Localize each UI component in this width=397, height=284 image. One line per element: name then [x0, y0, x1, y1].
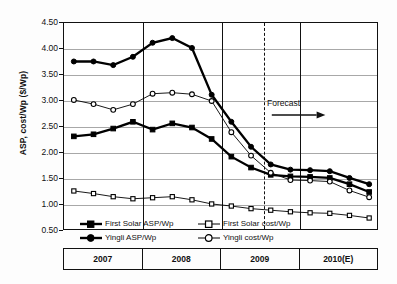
x-axis-year-groups: 2007200820092010(E) [63, 248, 378, 270]
legend-marker-filled-square-icon [80, 219, 102, 229]
series-marker [150, 40, 155, 45]
series-marker [170, 195, 174, 199]
series-marker [249, 165, 254, 170]
y-axis-tick-label: 0.50 [14, 225, 58, 235]
series-marker [131, 120, 136, 125]
x-axis-group-label: 2009 [221, 249, 300, 269]
series-marker [111, 126, 116, 131]
chart-legend: First Solar ASP/Wp First Solar cost/Wp Y… [80, 217, 320, 245]
series-marker [170, 90, 175, 95]
y-axis-tick-label: 1.00 [14, 199, 58, 209]
y-axis-tick-label: 1.50 [14, 173, 58, 183]
series-marker [111, 107, 116, 112]
series-marker [229, 119, 234, 124]
series-marker [131, 102, 136, 107]
plot-area: Forecast [63, 22, 378, 230]
x-axis-group-label: 2008 [143, 249, 222, 269]
series-marker [91, 102, 96, 107]
series-marker [288, 167, 293, 172]
series-marker [209, 137, 214, 142]
legend-label: First Solar cost/Wp [223, 219, 291, 229]
series-marker [91, 191, 95, 195]
data-series-lines [64, 23, 379, 231]
series-marker [347, 188, 352, 193]
series-marker [367, 216, 371, 220]
series-marker [288, 178, 293, 183]
series-marker [327, 179, 332, 184]
series-line [74, 38, 369, 184]
series-marker [367, 195, 372, 200]
x-axis-group-label: 2010(E) [300, 249, 378, 269]
series-marker [210, 202, 214, 206]
series-line [74, 191, 369, 218]
series-marker [229, 204, 233, 208]
y-axis-tick-mark [59, 230, 63, 231]
series-marker [111, 195, 115, 199]
series-marker [150, 196, 154, 200]
series-marker [150, 127, 155, 132]
y-axis-tick-label: 2.50 [14, 121, 58, 131]
series-marker [308, 211, 312, 215]
series-marker [288, 210, 292, 214]
series-marker [347, 182, 352, 187]
y-axis-tick-label: 4.50 [14, 17, 58, 27]
legend-item-first-solar-cost: First Solar cost/Wp [198, 217, 320, 231]
series-marker [190, 198, 194, 202]
series-marker [190, 125, 195, 130]
series-marker [249, 144, 254, 149]
legend-label: First Solar ASP/Wp [105, 219, 173, 229]
series-marker [347, 175, 352, 180]
legend-marker-open-circle-icon [198, 233, 220, 243]
legend-item-yingli-cost: Yingli cost/Wp [198, 231, 320, 245]
series-marker [91, 132, 96, 137]
series-marker [190, 92, 195, 97]
legend-marker-open-square-icon [198, 219, 220, 229]
series-marker [72, 189, 76, 193]
series-marker [367, 182, 372, 187]
series-marker [150, 91, 155, 96]
legend-item-first-solar-asp: First Solar ASP/Wp [80, 217, 198, 231]
y-axis-title: ASP, cost/Wp ($/Wp) [18, 38, 28, 188]
series-marker [209, 99, 214, 104]
series-marker [308, 178, 313, 183]
series-marker [347, 213, 351, 217]
series-marker [249, 207, 253, 211]
series-marker [249, 153, 254, 158]
series-marker [189, 45, 194, 50]
series-marker [268, 170, 273, 175]
y-axis-tick-label: 3.50 [14, 69, 58, 79]
series-marker [131, 197, 135, 201]
series-marker [71, 98, 76, 103]
legend-item-yingli-asp: Yingli ASP/Wp [80, 231, 198, 245]
series-marker [72, 134, 77, 139]
x-axis-group-label: 2007 [64, 249, 143, 269]
series-marker [229, 130, 234, 135]
series-marker [130, 54, 135, 59]
y-axis-tick-label: 4.00 [14, 43, 58, 53]
legend-label: Yingli ASP/Wp [105, 233, 156, 243]
series-marker [71, 59, 76, 64]
chart-figure: ASP, cost/Wp ($/Wp) 0.501.001.502.002.50… [0, 0, 397, 284]
series-marker [170, 121, 175, 126]
series-marker [328, 211, 332, 215]
series-marker [170, 36, 175, 41]
series-marker [269, 208, 273, 212]
series-marker [209, 92, 214, 97]
series-marker [91, 59, 96, 64]
series-marker [111, 63, 116, 68]
y-axis-tick-label: 2.00 [14, 147, 58, 157]
series-marker [327, 169, 332, 174]
series-marker [308, 168, 313, 173]
y-axis-tick-label: 3.00 [14, 95, 58, 105]
legend-marker-filled-circle-icon [80, 233, 102, 243]
series-marker [367, 190, 372, 195]
series-marker [268, 162, 273, 167]
legend-label: Yingli cost/Wp [223, 233, 273, 243]
series-marker [229, 154, 234, 159]
